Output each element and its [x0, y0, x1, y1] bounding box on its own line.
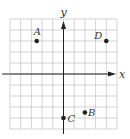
point-label: A [33, 26, 41, 37]
y-axis-label: y [60, 6, 68, 19]
point-label: B [87, 107, 95, 118]
x-axis-arrow-icon [108, 72, 116, 77]
point-b: B [83, 107, 96, 118]
point-marker [34, 39, 39, 44]
x-axis-label: x [119, 68, 126, 81]
y-axis-arrow-icon [61, 21, 66, 29]
point-marker [83, 110, 88, 115]
coordinate-plane: x y ABCD [0, 0, 130, 139]
point-marker [61, 116, 66, 121]
point-label: D [93, 30, 102, 41]
point-label: C [68, 113, 76, 124]
point-marker [104, 39, 109, 44]
